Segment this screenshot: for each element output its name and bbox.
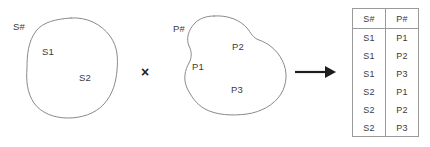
table-header-row: S# P# [353, 9, 418, 29]
set-s-label: S# [13, 21, 25, 32]
arrow-head [325, 66, 336, 78]
result-table: S# P# S1 P1 S1 P2 S1 P3 S2 [352, 8, 419, 137]
set-p-member-p1: P1 [192, 61, 204, 72]
set-p-member-p3: P3 [231, 84, 243, 95]
right-arrow-icon [294, 63, 338, 81]
cell-s: S1 [353, 47, 386, 65]
table-row: S1 P3 [353, 65, 418, 83]
table-row: S1 P2 [353, 47, 418, 65]
table-row: S2 P3 [353, 119, 418, 137]
set-p-member-p2: P2 [232, 41, 244, 52]
set-s-member-s1: S1 [42, 46, 54, 57]
cell-p: P3 [386, 119, 419, 137]
cell-p: P2 [386, 101, 419, 119]
set-s-member-s2: S2 [79, 72, 91, 83]
cell-s: S2 [353, 83, 386, 101]
set-s-blob-outline [27, 18, 118, 118]
table-row: S2 P1 [353, 83, 418, 101]
cell-p: P2 [386, 47, 419, 65]
column-header-s: S# [353, 9, 386, 29]
cell-s: S1 [353, 65, 386, 83]
cell-p: P1 [386, 29, 419, 48]
cell-s: S2 [353, 101, 386, 119]
cell-s: S1 [353, 29, 386, 48]
result-table-body: S1 P1 S1 P2 S1 P3 S2 P1 S2 P2 [353, 29, 418, 138]
cartesian-product-operator: × [141, 65, 149, 79]
cell-p: P1 [386, 83, 419, 101]
table-row: S2 P2 [353, 101, 418, 119]
cell-s: S2 [353, 119, 386, 137]
cartesian-product-diagram: S# S1 S2 × P# P1 P2 P3 S# P# S1 P1 [0, 0, 430, 147]
column-header-p: P# [386, 9, 419, 29]
table-row: S1 P1 [353, 29, 418, 48]
cell-p: P3 [386, 65, 419, 83]
set-p-label: P# [173, 23, 185, 34]
result-table-head: S# P# [353, 9, 418, 29]
result-table-grid: S# P# S1 P1 S1 P2 S1 P3 S2 [353, 9, 418, 137]
